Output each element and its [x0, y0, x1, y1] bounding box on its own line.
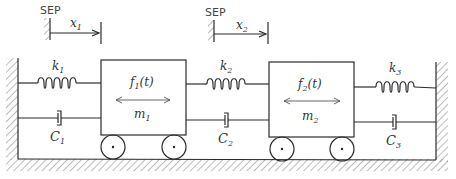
right-wall: [436, 62, 448, 162]
double-arrow-icon: [116, 97, 170, 103]
double-arrow-icon: [284, 98, 340, 104]
spring-coil-icon: [376, 82, 414, 93]
mass-m2: f2(t) m2: [269, 62, 354, 161]
sep1-label: SEP: [40, 4, 61, 17]
floor: [6, 159, 448, 171]
spring-coil-icon: [207, 79, 245, 90]
sep2-reference: SEP x2: [205, 6, 268, 44]
f2-label: f2(t): [297, 77, 322, 93]
sep1-reference: SEP x1: [40, 4, 101, 44]
m1-label: m1: [134, 107, 150, 123]
spring-k2: k2: [186, 59, 269, 89]
f1-label: f1(t): [129, 75, 154, 91]
k2-label: k2: [220, 59, 232, 75]
x2-label: x2: [236, 18, 248, 34]
spring-k1: k1: [18, 59, 101, 88]
spring-k3: k3: [354, 61, 436, 92]
m2-label: m2: [302, 109, 318, 125]
x1-label: x1: [70, 16, 82, 32]
c2-label: C2: [218, 131, 233, 148]
damper-c3: C3: [354, 115, 436, 150]
damper-c2: C2: [186, 113, 269, 148]
sep2-label: SEP: [205, 6, 226, 19]
k3-label: k3: [389, 61, 401, 77]
spring-coil-icon: [38, 78, 76, 89]
left-wall: [6, 58, 18, 160]
c3-label: C3: [386, 133, 401, 150]
c1-label: C1: [50, 129, 65, 146]
k1-label: k1: [52, 59, 64, 75]
mass-m1: f1(t) m1: [101, 60, 186, 159]
damper-c1: C1: [18, 111, 101, 146]
mass-spring-damper-diagram: SEP x1 SEP x2 k1 C1 f1(t): [0, 0, 456, 179]
